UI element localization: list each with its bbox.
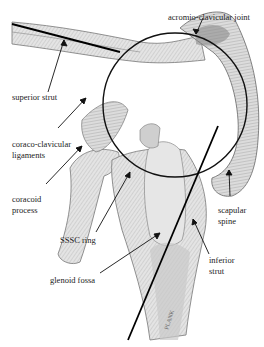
shoulder-illustration: PLANK bbox=[0, 0, 264, 347]
label-coraco-clavicular-ligaments-1: coraco-clavicular bbox=[12, 139, 71, 149]
shoulder-anatomy-figure: PLANK acromio-clavicular joint superior … bbox=[0, 0, 264, 347]
clavicle bbox=[12, 22, 205, 63]
label-glenoid-fossa: glenoid fossa bbox=[50, 275, 95, 285]
label-acromio-clavicular-joint: acromio-clavicular joint bbox=[168, 12, 250, 22]
label-inferior-strut-1: inferior bbox=[209, 255, 235, 265]
label-sssc-ring: SSSC ring bbox=[60, 235, 96, 245]
label-coracoid-process-1: coracoid bbox=[12, 194, 41, 204]
label-superior-strut: superior strut bbox=[12, 92, 57, 102]
label-scapular-spine-2: spine bbox=[218, 216, 236, 226]
label-scapular-spine-1: scapular bbox=[218, 205, 246, 215]
label-inferior-strut-2: strut bbox=[209, 266, 224, 276]
label-coracoid-process-2: process bbox=[12, 205, 38, 215]
label-coraco-clavicular-ligaments-2: ligaments bbox=[12, 150, 45, 160]
scapula-body bbox=[112, 124, 207, 340]
